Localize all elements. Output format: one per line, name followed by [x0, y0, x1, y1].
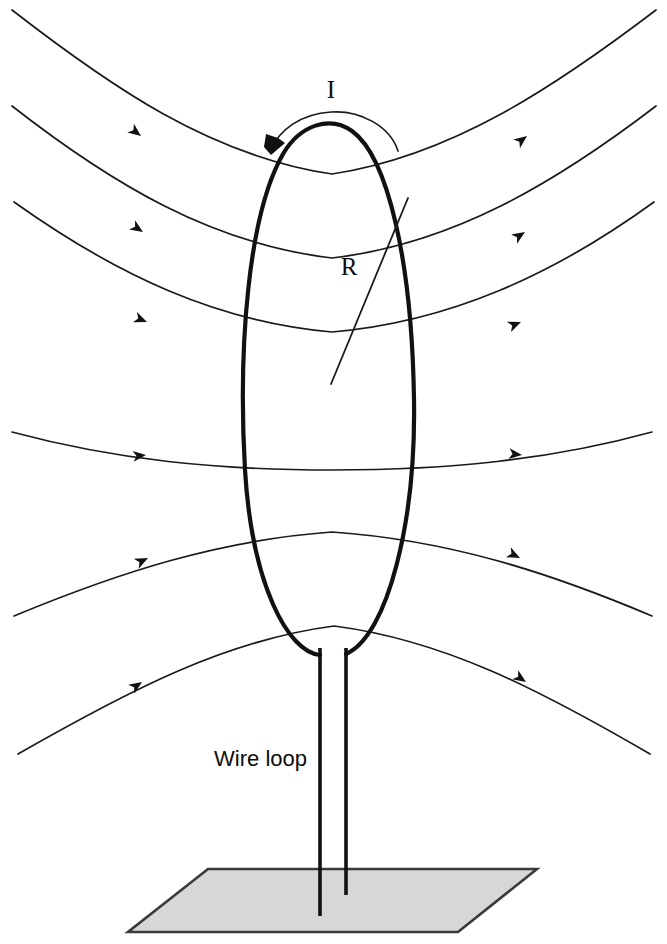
field-arrow-icon-5R — [506, 547, 523, 563]
field-line-2 — [12, 106, 656, 258]
wire-loop-field-diagram: I R Wire loop — [0, 0, 667, 944]
radius-line — [331, 198, 408, 384]
field-arrow-icon-6L — [128, 677, 145, 693]
wire-loop-label: Wire loop — [214, 746, 307, 771]
current-label: I — [327, 76, 335, 103]
ground-plane — [128, 869, 537, 932]
field-line-5 — [14, 532, 652, 616]
radius-label: R — [341, 253, 358, 280]
field-arrow-icon-2R — [511, 227, 528, 243]
field-arrow-icon-1L — [127, 124, 144, 141]
field-line-6 — [18, 626, 650, 754]
field-line-3 — [14, 202, 654, 332]
field-arrow-icon-3R — [507, 317, 523, 332]
field-arrow-icon-1R — [513, 132, 530, 149]
field-arrow-icon-2L — [129, 220, 146, 236]
field-line-4 — [12, 432, 652, 470]
field-arrow-icon-3L — [133, 312, 149, 327]
figure-canvas: I R Wire loop — [0, 0, 667, 944]
wire-loop-path — [243, 123, 414, 655]
field-arrow-icon-4L — [132, 450, 146, 462]
